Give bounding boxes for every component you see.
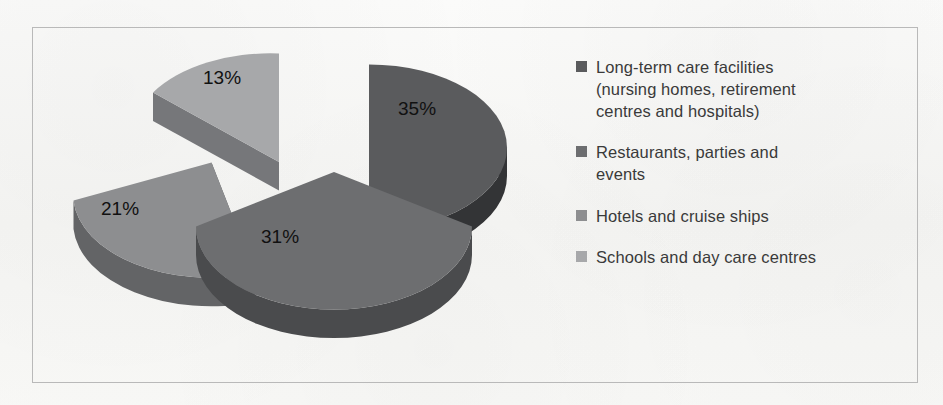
pie-slice-label-21: 21% [101,198,139,219]
legend-item-label: Schools and day care centres [596,246,816,268]
legend-swatch-icon [576,251,587,262]
legend-item-label: Restaurants, parties and events [596,141,778,185]
chart-frame: 21% 13% 35% [32,27,918,383]
legend-swatch-icon [576,146,587,157]
pie-slice-label-35: 35% [398,98,436,119]
legend-item-restaurants-parties-and-events[interactable]: Restaurants, parties and events [576,141,906,185]
pie-chart-svg: 21% 13% 35% [33,28,593,384]
chart-legend: Long-term care facilities (nursing homes… [576,56,906,287]
legend-item-schools-and-day-care-centres[interactable]: Schools and day care centres [576,246,906,268]
legend-swatch-icon [576,61,587,72]
pie-chart-area: 21% 13% 35% [33,28,593,384]
legend-item-label: Hotels and cruise ships [596,205,769,227]
pie-slice-label-31: 31% [261,226,299,247]
legend-item-hotels-and-cruise-ships[interactable]: Hotels and cruise ships [576,205,906,227]
legend-swatch-icon [576,210,587,221]
legend-item-long-term-care-facilities[interactable]: Long-term care facilities (nursing homes… [576,56,906,122]
pie-slice-label-13: 13% [203,67,241,88]
legend-item-label: Long-term care facilities (nursing homes… [596,56,796,122]
